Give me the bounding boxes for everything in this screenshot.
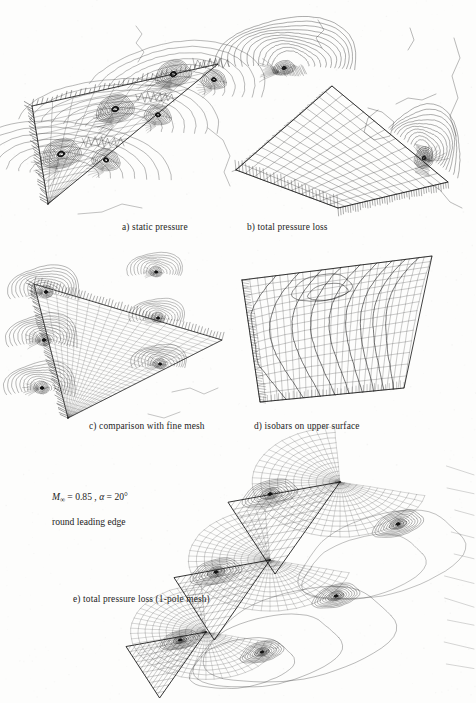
mach-symbol: M	[52, 491, 60, 502]
caption-panel-a: a) static pressure	[122, 222, 188, 232]
figure-page: a) static pressure b) total pressure los…	[0, 0, 476, 703]
caption-panel-b: b) total pressure loss	[247, 222, 328, 232]
panel-e-polar-mesh	[150, 436, 476, 703]
flow-conditions-line2: round leading edge	[52, 516, 126, 527]
panel-a-static-pressure	[18, 8, 250, 220]
panel-c-canvas	[22, 232, 238, 424]
panel-b-canvas	[222, 12, 474, 220]
caption-panel-d: d) isobars on upper surface	[254, 421, 360, 431]
panel-c-fine-mesh	[22, 232, 238, 424]
caption-panel-e: e) total pressure loss (1-pole mesh)	[73, 594, 210, 604]
caption-panel-c: c) comparison with fine mesh	[89, 421, 205, 431]
mach-value: = 0.85 ,	[65, 491, 99, 502]
panel-a-canvas	[18, 8, 250, 220]
alpha-value: = 20°	[104, 491, 128, 502]
panel-d-isobars	[236, 236, 476, 420]
panel-d-canvas	[236, 236, 476, 420]
flow-conditions-line1: M∞ = 0.85 , α = 20°	[52, 491, 128, 504]
panel-e-canvas	[150, 436, 476, 703]
panel-b-total-pressure-loss	[222, 12, 474, 220]
